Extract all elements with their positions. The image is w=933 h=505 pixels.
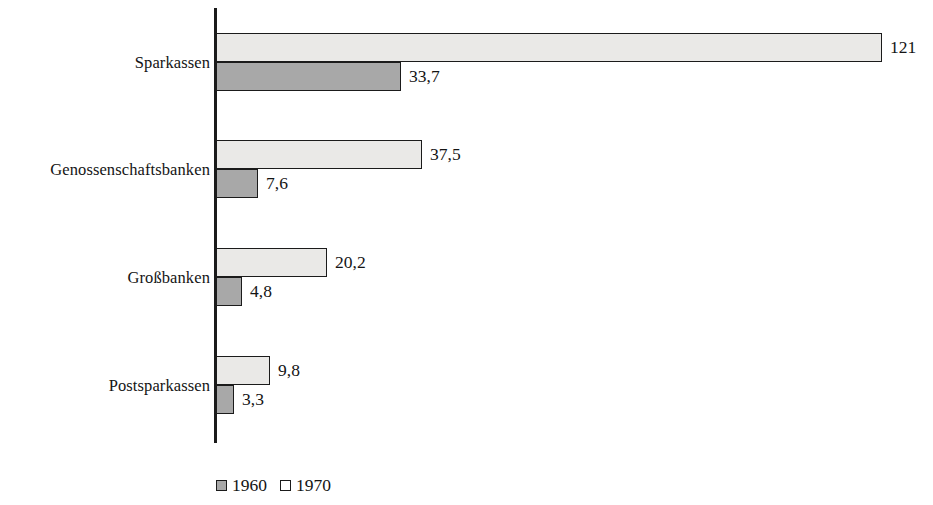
bar-value-label: 3,3: [242, 385, 264, 414]
bar-value-label: 37,5: [430, 140, 461, 169]
legend-label: 1970: [296, 477, 331, 495]
bar-1960: [216, 62, 401, 91]
bar-value-label: 9,8: [278, 356, 300, 385]
white-filled-square-icon: [280, 480, 291, 491]
bar-value-label: 33,7: [409, 62, 440, 91]
bar-1960: [216, 277, 242, 306]
category-label: Postsparkassen: [0, 378, 210, 395]
bar-1970: [216, 248, 327, 277]
category-label: Genossenschaftsbanken: [0, 162, 210, 179]
category-label: Sparkassen: [0, 55, 210, 72]
bar-value-label: 20,2: [335, 248, 366, 277]
bar-value-label: 121: [890, 33, 916, 62]
category-label: Großbanken: [0, 270, 210, 287]
bar-1970: [216, 33, 882, 62]
legend-item-1960: 1960: [216, 477, 267, 495]
bar-1970: [216, 140, 422, 169]
plot-area: Sparkassen 121 33,7 Genossenschaftsbanke…: [0, 0, 933, 460]
legend-label: 1960: [232, 477, 267, 495]
bar-value-label: 7,6: [266, 169, 288, 198]
bar-1960: [216, 169, 258, 198]
bar-1960: [216, 385, 234, 414]
chart-legend: 1960 1970: [216, 477, 331, 495]
gray-filled-square-icon: [216, 480, 227, 491]
legend-item-1970: 1970: [280, 477, 331, 495]
bar-value-label: 4,8: [250, 277, 272, 306]
bar-chart: Sparkassen 121 33,7 Genossenschaftsbanke…: [0, 0, 933, 505]
bar-1970: [216, 356, 270, 385]
